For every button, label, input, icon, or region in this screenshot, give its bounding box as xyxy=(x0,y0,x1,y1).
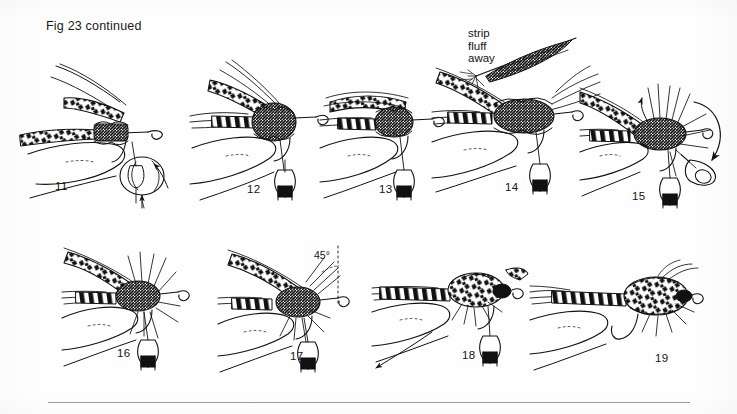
illustration-step-19 xyxy=(530,264,715,382)
illustration-step-11 xyxy=(20,58,185,208)
illustration-step-14 xyxy=(432,26,602,212)
page-title: Fig 23 continued xyxy=(46,19,142,33)
illustration-step-17 xyxy=(218,236,388,381)
illustration-step-18 xyxy=(372,258,547,384)
illustration-step-16 xyxy=(62,236,222,381)
illustration-step-15 xyxy=(580,56,737,212)
figure-page: Fig 23 continued strip fluff away 45° 11… xyxy=(0,0,737,414)
bottom-divider xyxy=(48,402,690,403)
